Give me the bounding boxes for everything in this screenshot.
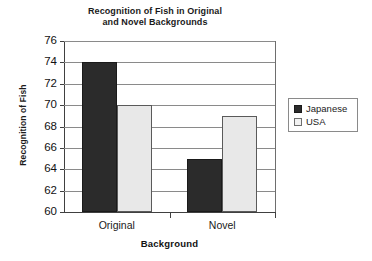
y-tick-mark [60,212,64,213]
y-tick-mark [60,191,64,192]
y-tick-label: 66 [31,142,57,153]
y-tick-mark [60,105,64,106]
y-tick-label: 64 [31,163,57,174]
y-tick-mark [60,41,64,42]
y-tick-label: 76 [31,35,57,46]
chart-legend: JapaneseUSA [288,98,358,132]
y-tick-label: 62 [31,185,57,196]
x-category-label: Novel [182,219,262,231]
bar-chart: Recognition of Fish in Original and Nove… [0,0,372,261]
y-tick-label: 74 [31,56,57,67]
gridline [64,41,275,42]
plot-frame-right [275,41,276,212]
y-tick-mark [60,84,64,85]
x-category-label: Original [77,219,157,231]
bar-novel-usa [222,116,257,212]
chart-title: Recognition of Fish in Original and Nove… [40,6,270,28]
y-axis-title: Recognition of Fish [18,55,28,195]
x-axis-title: Background [64,238,275,249]
legend-swatch-icon [294,118,302,126]
y-tick-mark [60,169,64,170]
legend-swatch-icon [294,105,302,113]
chart-title-line-1: Recognition of Fish in Original [40,6,270,17]
y-tick-mark [60,62,64,63]
x-tick-mark [275,213,276,218]
y-tick-label: 60 [31,206,57,217]
legend-label: Japanese [306,104,347,114]
y-tick-label: 68 [31,121,57,132]
y-tick-label: 72 [31,78,57,89]
bar-original-usa [117,105,152,212]
legend-item: Japanese [294,103,357,115]
y-tick-label: 70 [31,99,57,110]
y-tick-mark [60,127,64,128]
chart-title-line-2: and Novel Backgrounds [40,17,270,28]
legend-label: USA [306,117,326,127]
bar-original-japanese [82,62,117,212]
legend-item: USA [294,116,357,128]
y-tick-mark [60,148,64,149]
bar-novel-japanese [187,159,222,212]
x-tick-mark [170,213,171,218]
